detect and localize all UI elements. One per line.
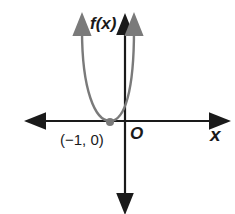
origin-label: O — [130, 124, 143, 144]
graph — [0, 0, 235, 214]
y-axis-label: f(x) — [90, 14, 116, 34]
parabola-curve — [82, 30, 134, 121]
vertex-point — [106, 118, 114, 126]
x-axis-label: x — [210, 124, 221, 146]
vertex-label: (−1, 0) — [60, 131, 104, 148]
